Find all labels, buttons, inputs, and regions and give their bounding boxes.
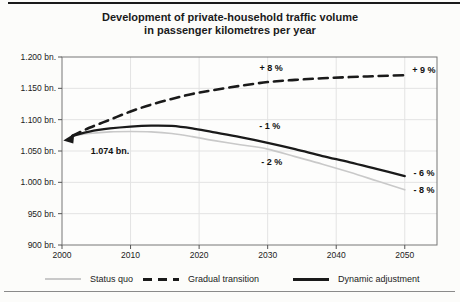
annotation-label: - 1 %: [259, 121, 280, 131]
annotation-label: 1.074 bn.: [91, 146, 130, 156]
x-tick-label: 2040: [327, 250, 346, 260]
y-tick-label: 1.000 bn.: [16, 177, 56, 187]
chart-page: Development of private-household traffic…: [0, 0, 460, 302]
annotation-label: + 9 %: [412, 65, 435, 75]
legend-line-sample-icon: [293, 278, 329, 281]
x-tick-label: 2050: [395, 250, 414, 260]
legend-label: Status quo: [90, 274, 133, 284]
x-tick-label: 2000: [53, 250, 72, 260]
x-tick-label: 2010: [121, 250, 140, 260]
legend-line-sample-icon: [143, 278, 179, 281]
chart-legend: Status quoGradual transitionDynamic adju…: [0, 271, 460, 289]
legend-label: Dynamic adjustment: [338, 274, 420, 284]
legend-label: Gradual transition: [188, 274, 259, 284]
legend-item-gradual-transition: Gradual transition: [143, 271, 259, 287]
annotation-label: - 2 %: [261, 157, 282, 167]
y-tick-label: 1.050 bn.: [16, 146, 56, 156]
y-tick-label: 950 bn.: [16, 209, 56, 219]
annotation-label: - 6 %: [413, 168, 434, 178]
annotation-label: + 8 %: [259, 63, 282, 73]
y-tick-label: 1.200 bn.: [16, 52, 56, 62]
bottom-rule: [4, 291, 455, 292]
x-tick-label: 2030: [258, 250, 277, 260]
y-tick-label: 900 bn.: [16, 240, 56, 250]
x-tick-label: 2020: [190, 250, 209, 260]
legend-item-dynamic-adjustment: Dynamic adjustment: [293, 271, 420, 287]
legend-line-sample-icon: [45, 278, 81, 280]
legend-item-status-quo: Status quo: [45, 271, 133, 287]
y-tick-label: 1.150 bn.: [16, 83, 56, 93]
y-tick-label: 1.100 bn.: [16, 115, 56, 125]
annotation-label: - 8 %: [413, 185, 434, 195]
